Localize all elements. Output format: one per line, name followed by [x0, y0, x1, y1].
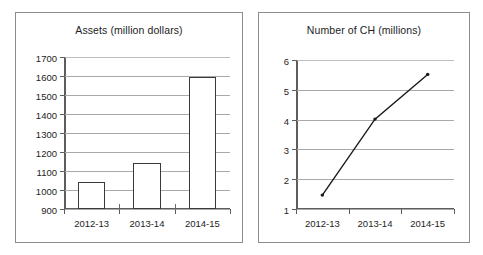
y-tick-label: 3	[284, 145, 289, 156]
y-tick	[60, 57, 65, 58]
y-tick-label: 1600	[36, 72, 57, 83]
y-tick-label: 1400	[36, 110, 57, 121]
gridline	[64, 209, 230, 210]
y-tick	[60, 76, 65, 77]
y-tick-label: 1000	[36, 186, 57, 197]
x-minor-tick	[175, 204, 176, 210]
y-tick-label: 2	[284, 175, 289, 186]
data-point-marker	[321, 193, 324, 196]
y-tick	[60, 190, 65, 191]
y-tick	[60, 133, 65, 134]
x-tick	[230, 209, 231, 214]
y-tick-label: 1	[284, 205, 289, 216]
bar	[133, 163, 161, 210]
x-tick-label: 2014-15	[185, 218, 220, 229]
data-point-marker	[426, 73, 429, 76]
x-minor-tick	[119, 204, 120, 210]
chart-figure: Assets (million dollars) 900100011001200…	[0, 0, 483, 255]
x-tick	[454, 209, 455, 214]
assets-chart-title: Assets (million dollars)	[16, 24, 242, 36]
y-tick-label: 900	[41, 205, 57, 216]
y-tick	[60, 95, 65, 96]
x-tick-label: 2012-13	[305, 218, 340, 229]
gridline	[64, 57, 230, 58]
y-tick	[60, 114, 65, 115]
y-tick-label: 1100	[37, 167, 57, 178]
x-tick-label: 2013-14	[358, 218, 393, 229]
x-tick-label: 2014-15	[410, 218, 445, 229]
x-tick-label: 2012-13	[74, 218, 109, 229]
assets-plot-area: 90010001100120013001400150016001700 2012…	[64, 58, 230, 210]
y-tick-label: 4	[284, 115, 289, 126]
ch-plot-area: 123456 2012-132013-142014-15	[296, 61, 454, 210]
y-tick	[60, 152, 65, 153]
y-tick-label: 5	[284, 85, 289, 96]
y-tick-label: 6	[284, 56, 289, 67]
y-tick-label: 1700	[36, 53, 57, 64]
ch-chart-panel: Number of CH (millions) 123456 2012-1320…	[258, 12, 470, 243]
bar	[78, 182, 106, 210]
y-tick-label: 1500	[36, 91, 57, 102]
assets-y-axis	[64, 58, 66, 210]
assets-chart-panel: Assets (million dollars) 900100011001200…	[15, 12, 243, 243]
y-tick	[60, 171, 65, 172]
bar	[189, 77, 217, 209]
x-tick	[64, 209, 65, 214]
y-tick-label: 1200	[36, 148, 57, 159]
data-point-marker	[373, 117, 376, 120]
y-tick-label: 1300	[36, 129, 57, 140]
ch-chart-title: Number of CH (millions)	[259, 24, 469, 36]
x-tick-label: 2013-14	[130, 218, 165, 229]
